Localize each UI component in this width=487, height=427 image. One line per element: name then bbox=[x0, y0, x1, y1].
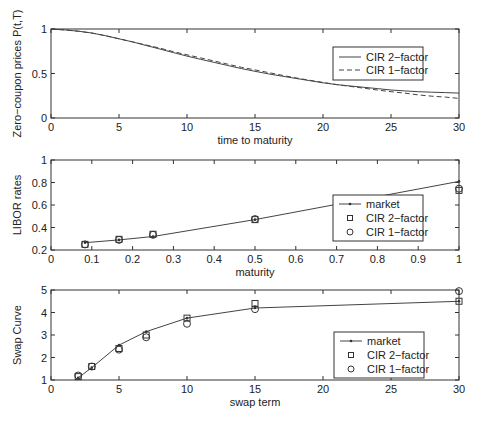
x-tick-label: 1 bbox=[456, 253, 462, 265]
x-tick-label: 25 bbox=[385, 121, 397, 133]
x-tick-label: 5 bbox=[116, 121, 122, 133]
legend-label: CIR 1−factor bbox=[366, 226, 428, 238]
x-tick-label: 0.1 bbox=[84, 253, 99, 265]
y-tick-label: 0.6 bbox=[32, 199, 47, 211]
x-axis-label: time to maturity bbox=[217, 134, 293, 146]
legend-label: market bbox=[366, 198, 400, 210]
x-tick-label: 15 bbox=[249, 383, 261, 395]
legend-dot-icon bbox=[349, 203, 352, 206]
x-tick-label: 0 bbox=[48, 121, 54, 133]
legend: marketCIR 2−factorCIR 1−factor bbox=[333, 195, 428, 241]
legend: CIR 2−factorCIR 1−factor bbox=[333, 47, 428, 80]
y-tick-label: 3 bbox=[41, 329, 47, 341]
y-tick-label: 0 bbox=[41, 112, 47, 124]
legend-label: market bbox=[367, 335, 401, 347]
legend-label: CIR 1−factor bbox=[367, 363, 429, 375]
x-tick-label: 30 bbox=[453, 383, 465, 395]
x-axis-label: swap term bbox=[230, 396, 281, 408]
x-tick-label: 0.6 bbox=[288, 253, 303, 265]
figure: 05101520253000.51time to maturityZero−co… bbox=[0, 0, 487, 427]
chart-panel-2: 00.10.20.30.40.50.60.70.80.910.20.40.60.… bbox=[11, 154, 463, 278]
x-tick-label: 10 bbox=[181, 383, 193, 395]
x-tick-label: 0.2 bbox=[125, 253, 140, 265]
market-point-marker bbox=[458, 300, 461, 303]
x-tick-label: 0 bbox=[48, 383, 54, 395]
chart-panel-3: 05101520253012345swap termSwap Curvemark… bbox=[11, 284, 465, 408]
x-tick-label: 25 bbox=[385, 383, 397, 395]
chart-panel-1: 05101520253000.51time to maturityZero−co… bbox=[11, 9, 465, 146]
x-tick-label: 30 bbox=[453, 121, 465, 133]
market-point-marker bbox=[186, 317, 189, 320]
y-tick-label: 5 bbox=[41, 284, 47, 296]
x-tick-label: 5 bbox=[116, 383, 122, 395]
x-tick-label: 0.3 bbox=[166, 253, 181, 265]
legend-label: CIR 2−factor bbox=[366, 51, 428, 63]
x-tick-label: 0.7 bbox=[329, 253, 344, 265]
market-point-marker bbox=[118, 239, 121, 242]
y-axis-label: Zero−coupon prices P(t,T) bbox=[11, 9, 23, 137]
legend: marketCIR 2−factorCIR 1−factor bbox=[334, 332, 429, 378]
legend-label: CIR 2−factor bbox=[367, 349, 429, 361]
market-point-marker bbox=[91, 366, 94, 369]
y-tick-label: 0.2 bbox=[32, 244, 47, 256]
x-tick-label: 0 bbox=[48, 253, 54, 265]
x-tick-label: 20 bbox=[317, 121, 329, 133]
y-tick-label: 1 bbox=[41, 23, 47, 35]
x-tick-label: 15 bbox=[249, 121, 261, 133]
x-tick-label: 0.8 bbox=[370, 253, 385, 265]
x-tick-label: 0.4 bbox=[207, 253, 222, 265]
market-point-marker bbox=[254, 218, 257, 221]
market-point-marker bbox=[458, 180, 461, 183]
y-tick-label: 1 bbox=[41, 154, 47, 166]
y-tick-label: 0.4 bbox=[32, 222, 47, 234]
market-point-marker bbox=[254, 307, 257, 310]
legend-label: CIR 2−factor bbox=[366, 212, 428, 224]
y-axis-label: LIBOR rates bbox=[11, 174, 23, 235]
y-tick-label: 2 bbox=[41, 352, 47, 364]
y-tick-label: 0.8 bbox=[32, 177, 47, 189]
chart-canvas: 05101520253000.51time to maturityZero−co… bbox=[0, 0, 487, 427]
x-tick-label: 0.9 bbox=[411, 253, 426, 265]
y-axis-label: Swap Curve bbox=[11, 305, 23, 365]
x-tick-label: 10 bbox=[181, 121, 193, 133]
legend-dot-icon bbox=[350, 340, 353, 343]
x-tick-label: 20 bbox=[317, 383, 329, 395]
x-axis-label: maturity bbox=[235, 266, 275, 278]
y-tick-label: 1 bbox=[41, 374, 47, 386]
x-tick-label: 0.5 bbox=[247, 253, 262, 265]
y-tick-label: 0.5 bbox=[32, 68, 47, 80]
legend-label: CIR 1−factor bbox=[366, 64, 428, 76]
y-tick-label: 4 bbox=[41, 307, 47, 319]
